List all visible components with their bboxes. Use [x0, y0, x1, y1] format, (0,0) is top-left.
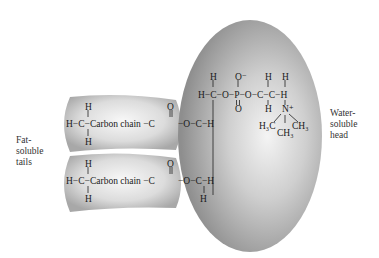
svg-text:H: H [265, 104, 272, 114]
svg-text:CH₃: CH₃ [292, 121, 309, 131]
svg-text:H−C−Carbon chain −C: H−C−Carbon chain −C [66, 176, 155, 186]
label-line: soluble [330, 119, 357, 130]
svg-text:H: H [265, 72, 272, 82]
svg-text:H: H [85, 137, 92, 147]
svg-text:H₃C: H₃C [259, 121, 276, 131]
svg-text:O: O [167, 102, 174, 112]
phospholipid-diagram: H O⁻ H H H−C−O−P−O−C−C−H O H N⁺ H₃C CH₃ … [0, 0, 379, 258]
svg-text:−O−C−H: −O−C−H [178, 176, 214, 186]
svg-text:H−C−O−P−O−C−C−H: H−C−O−P−O−C−C−H [198, 90, 287, 100]
head-shape [178, 20, 322, 252]
label-line: Water- [330, 108, 357, 119]
svg-text:O⁻: O⁻ [235, 72, 247, 82]
label-line: soluble [16, 146, 43, 157]
svg-text:H: H [282, 72, 289, 82]
svg-text:−O−C−H: −O−C−H [178, 119, 214, 129]
label-line: Fat- [16, 135, 43, 146]
svg-text:O: O [167, 159, 174, 169]
label-line: head [330, 130, 357, 141]
water-soluble-head-label: Water- soluble head [330, 108, 357, 141]
svg-text:O: O [235, 104, 242, 114]
svg-text:H: H [85, 194, 92, 204]
svg-text:CH₃: CH₃ [277, 128, 294, 138]
label-line: tails [16, 157, 43, 168]
svg-text:H−C−Carbon chain −C: H−C−Carbon chain −C [66, 119, 155, 129]
svg-text:H: H [200, 194, 207, 204]
svg-text:H: H [85, 102, 92, 112]
fat-soluble-tails-label: Fat- soluble tails [16, 135, 43, 168]
svg-text:N⁺: N⁺ [282, 104, 294, 114]
svg-text:H: H [210, 72, 217, 82]
svg-text:H: H [85, 159, 92, 169]
